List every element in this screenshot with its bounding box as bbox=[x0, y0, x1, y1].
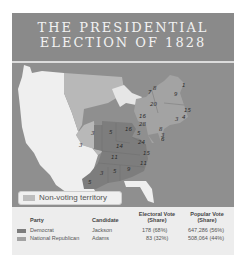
state-vote-label: 3 bbox=[79, 142, 83, 148]
state-vote-label: 5 bbox=[109, 129, 113, 135]
title-line-1: THE PRESIDENTIAL bbox=[12, 20, 234, 35]
header-popular-share: (Share) bbox=[182, 217, 232, 223]
non-voting-swatch bbox=[23, 195, 35, 201]
state-vote-label: 3 bbox=[100, 170, 104, 176]
row-candidate: Adams bbox=[92, 235, 109, 242]
election-map: 8 7 9 1 20 16 15 4 3 28 8 3 6 5 3 5 16 2… bbox=[12, 63, 234, 207]
us-map-graphic: 8 7 9 1 20 16 15 4 3 28 8 3 6 5 3 5 16 2… bbox=[12, 63, 234, 207]
state-vote-label: 9 bbox=[174, 91, 178, 97]
state-vote-label: 5 bbox=[88, 179, 92, 185]
header-candidate: Candidate bbox=[92, 217, 119, 223]
state-vote-label: 4 bbox=[182, 114, 186, 120]
state-vote-label: 11 bbox=[111, 154, 118, 160]
state-vote-label: 5 bbox=[113, 168, 117, 174]
legend-label: Non-voting territory bbox=[39, 192, 107, 204]
row-popular: 508,064 (44%) bbox=[188, 235, 224, 242]
state-vote-label: 14 bbox=[116, 143, 123, 149]
results-table: Party Candidate Electoral Vote (Share) P… bbox=[12, 207, 234, 255]
row-party: Democrat bbox=[30, 227, 54, 234]
state-vote-label: 9 bbox=[127, 166, 131, 172]
row-electoral: 178 (68%) bbox=[142, 227, 167, 234]
state-vote-label: 7 bbox=[148, 89, 152, 95]
state-vote-label: 1 bbox=[182, 82, 186, 88]
header-popular-vote: Popular Vote (Share) bbox=[182, 211, 232, 223]
state-vote-label: 16 bbox=[125, 126, 132, 132]
row-popular: 647,286 (56%) bbox=[188, 227, 224, 234]
state-vote-label: 28 bbox=[139, 121, 146, 127]
row-electoral: 83 (32%) bbox=[146, 235, 168, 242]
state-vote-label: 3 bbox=[175, 116, 179, 122]
title-line-2: ELECTION OF 1828 bbox=[12, 35, 234, 50]
header-electoral-vote: Electoral Vote (Share) bbox=[132, 211, 182, 223]
row-party: National Republican bbox=[30, 235, 79, 242]
state-vote-label: 5 bbox=[137, 130, 141, 136]
row-candidate: Jackson bbox=[92, 227, 112, 234]
state-vote-label: 15 bbox=[143, 150, 150, 156]
header-party: Party bbox=[30, 217, 44, 223]
state-vote-label: 8 bbox=[153, 85, 157, 91]
map-legend: Non-voting territory bbox=[18, 191, 122, 205]
state-vote-label: 20 bbox=[150, 101, 157, 107]
state-vote-label: 16 bbox=[139, 113, 146, 119]
header-electoral-share: (Share) bbox=[132, 217, 182, 223]
state-vote-label: 6 bbox=[161, 136, 165, 142]
map-card: THE PRESIDENTIAL ELECTION OF 1828 8 7 bbox=[12, 13, 234, 207]
florida-territory-region bbox=[124, 181, 154, 203]
national-republican-swatch bbox=[17, 237, 26, 241]
state-vote-label: 15 bbox=[184, 107, 191, 113]
democrat-swatch bbox=[17, 229, 26, 233]
state-vote-label: 3 bbox=[91, 130, 95, 136]
state-vote-label: 24 bbox=[138, 139, 145, 145]
map-title: THE PRESIDENTIAL ELECTION OF 1828 bbox=[12, 13, 234, 61]
state-vote-label: 11 bbox=[140, 160, 147, 166]
